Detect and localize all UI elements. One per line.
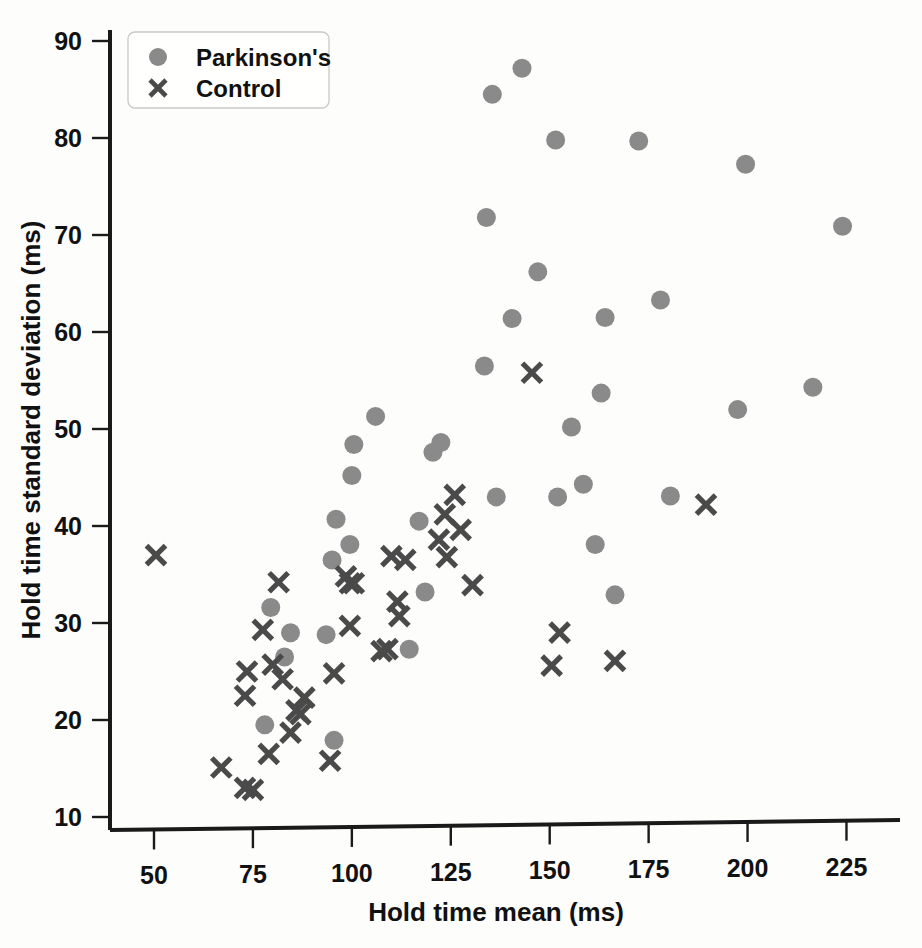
data-point-control bbox=[325, 664, 344, 683]
legend-label-parkinsons: Parkinson's bbox=[196, 44, 331, 71]
data-point-parkinsons bbox=[366, 407, 385, 426]
data-point-parkinsons bbox=[416, 582, 435, 601]
data-point-control bbox=[550, 623, 569, 642]
data-point-control bbox=[321, 751, 340, 770]
data-point-parkinsons bbox=[546, 130, 565, 149]
legend: Parkinson's Control bbox=[128, 32, 331, 108]
y-axis-ticks: 102030405060708090 bbox=[54, 27, 110, 831]
data-point-parkinsons bbox=[475, 356, 494, 375]
data-point-control bbox=[451, 520, 470, 539]
x-axis-ticks: 5075100125150175200225 bbox=[140, 821, 867, 890]
axes-group bbox=[110, 30, 900, 830]
data-point-parkinsons bbox=[344, 435, 363, 454]
data-point-control bbox=[522, 363, 541, 382]
data-point-control bbox=[212, 758, 231, 777]
data-point-parkinsons bbox=[281, 623, 300, 642]
data-point-control bbox=[259, 744, 278, 763]
y-tick-label: 40 bbox=[54, 512, 82, 540]
data-point-control bbox=[542, 656, 561, 675]
data-point-parkinsons bbox=[327, 510, 346, 529]
data-point-control bbox=[445, 485, 464, 504]
legend-marker-parkinsons-icon bbox=[149, 48, 167, 66]
data-point-parkinsons bbox=[325, 731, 344, 750]
data-point-control bbox=[281, 723, 300, 742]
data-point-parkinsons bbox=[592, 384, 611, 403]
y-axis-title: Hold time standard deviation (ms) bbox=[16, 221, 46, 640]
data-point-parkinsons bbox=[400, 640, 419, 659]
series-parkinsons-points bbox=[255, 59, 852, 750]
data-point-parkinsons bbox=[423, 443, 442, 462]
data-point-parkinsons bbox=[477, 208, 496, 227]
legend-label-control: Control bbox=[196, 75, 281, 102]
data-point-control bbox=[146, 546, 165, 565]
data-point-parkinsons bbox=[651, 290, 670, 309]
data-point-parkinsons bbox=[342, 466, 361, 485]
data-point-parkinsons bbox=[574, 475, 593, 494]
x-tick-label: 100 bbox=[331, 859, 373, 887]
x-tick-label: 150 bbox=[529, 856, 571, 884]
x-tick-label: 50 bbox=[140, 861, 168, 889]
y-tick-label: 90 bbox=[54, 27, 82, 55]
series-control-points bbox=[146, 363, 715, 799]
data-point-parkinsons bbox=[629, 131, 648, 150]
data-point-parkinsons bbox=[528, 262, 547, 281]
data-point-control bbox=[605, 651, 624, 670]
data-point-parkinsons bbox=[833, 217, 852, 236]
y-tick-label: 10 bbox=[54, 803, 82, 831]
y-tick-label: 30 bbox=[54, 609, 82, 637]
scatter-plot-figure: 102030405060708090 507510012515017520022… bbox=[0, 0, 922, 948]
data-point-control bbox=[236, 686, 255, 705]
data-point-parkinsons bbox=[562, 418, 581, 437]
data-point-parkinsons bbox=[728, 400, 747, 419]
data-point-parkinsons bbox=[487, 487, 506, 506]
data-point-parkinsons bbox=[661, 486, 680, 505]
data-point-parkinsons bbox=[586, 535, 605, 554]
x-axis-title: Hold time mean (ms) bbox=[368, 897, 624, 927]
data-point-parkinsons bbox=[410, 512, 429, 531]
data-point-control bbox=[237, 662, 256, 681]
data-point-parkinsons bbox=[803, 378, 822, 397]
x-tick-label: 225 bbox=[826, 853, 868, 881]
data-point-parkinsons bbox=[255, 715, 274, 734]
data-point-control bbox=[269, 573, 288, 592]
data-point-parkinsons bbox=[317, 625, 336, 644]
y-tick-label: 60 bbox=[54, 318, 82, 346]
x-tick-label: 75 bbox=[239, 860, 267, 888]
data-point-parkinsons bbox=[483, 85, 502, 104]
data-point-parkinsons bbox=[736, 155, 755, 174]
data-point-parkinsons bbox=[513, 59, 532, 78]
x-axis-line bbox=[110, 820, 900, 830]
y-tick-label: 20 bbox=[54, 706, 82, 734]
data-point-parkinsons bbox=[503, 309, 522, 328]
data-point-parkinsons bbox=[596, 308, 615, 327]
data-point-parkinsons bbox=[548, 487, 567, 506]
data-point-control bbox=[340, 616, 359, 635]
plot-canvas: 102030405060708090 507510012515017520022… bbox=[0, 0, 922, 948]
data-point-control bbox=[697, 495, 716, 514]
data-point-parkinsons bbox=[261, 598, 280, 617]
data-point-control bbox=[253, 620, 272, 639]
y-tick-label: 70 bbox=[54, 221, 82, 249]
data-point-control bbox=[463, 576, 482, 595]
x-tick-label: 200 bbox=[727, 854, 769, 882]
x-tick-label: 175 bbox=[628, 855, 670, 883]
y-tick-label: 50 bbox=[54, 415, 82, 443]
data-point-parkinsons bbox=[605, 585, 624, 604]
x-tick-label: 125 bbox=[430, 858, 472, 886]
data-point-parkinsons bbox=[340, 535, 359, 554]
y-tick-label: 80 bbox=[54, 124, 82, 152]
data-point-control bbox=[390, 607, 409, 626]
